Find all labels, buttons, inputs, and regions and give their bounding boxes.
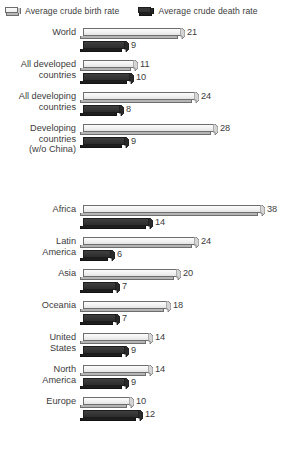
birth-rate-bar-base: [80, 68, 131, 71]
death-rate-bar-base: [80, 354, 122, 357]
birth-rate-bar-base: [80, 309, 164, 312]
death-rate-bar-end-cap: [110, 250, 114, 261]
death-rate-bar-face: [83, 250, 111, 258]
death-rate-value-label: 12: [145, 409, 155, 420]
category-label: United States: [0, 332, 76, 353]
birth-rate-value-label: 11: [140, 59, 150, 70]
category-label: North America: [0, 364, 76, 385]
death-rate-bar-base: [80, 226, 146, 229]
death-rate-bar-base: [80, 290, 113, 293]
birth-rate-value-label: 10: [136, 396, 146, 407]
death-rate-value-label: 9: [131, 40, 136, 51]
birth-rate-bar-end-cap: [148, 333, 152, 344]
birth-rate-bar-base: [80, 405, 127, 408]
chart-group-aggregates: World219All developed countries1110All d…: [0, 28, 305, 156]
birth-rate-bar-face: [83, 92, 195, 100]
death-rate-bar-face: [83, 73, 130, 81]
birth-rate-bar-end-cap: [194, 92, 198, 103]
chart-row: North America149: [0, 365, 305, 397]
category-label: Africa: [0, 204, 76, 215]
death-rate-bar-end-cap: [124, 378, 128, 389]
chart-row: United States149: [0, 333, 305, 365]
death-rate-bar-face: [83, 105, 120, 113]
birth-rate-bar-end-cap: [148, 365, 152, 376]
death-rate-bar-base: [80, 145, 122, 148]
chart-row: Developing countries (w/o China)289: [0, 124, 305, 156]
chart-row: All developed countries1110: [0, 60, 305, 92]
birth-rate-bar-base: [80, 132, 211, 135]
birth-rate-bar-base: [80, 100, 192, 103]
death-rate-value-label: 8: [126, 104, 131, 115]
birth-rate-value-label: 21: [187, 27, 197, 38]
birth-rate-bar-base: [80, 36, 178, 39]
death-rate-bar-face: [83, 346, 125, 354]
death-rate-value-label: 9: [131, 377, 136, 388]
birth-rate-bar-face: [83, 124, 214, 132]
birth-rate-value-label: 14: [155, 364, 165, 375]
birth-rate-value-label: 38: [267, 204, 277, 215]
death-rate-bar-base: [80, 386, 122, 389]
birth-rate-value-label: 28: [220, 123, 230, 134]
death-rate-bar-end-cap: [115, 282, 119, 293]
death-rate-value-label: 10: [136, 72, 146, 83]
birth-rate-bar-base: [80, 277, 174, 280]
birth-rate-bar-end-cap: [213, 124, 217, 135]
category-label: Developing countries (w/o China): [0, 123, 76, 155]
birth-rate-bar-face: [83, 301, 167, 309]
chart-row: World219: [0, 28, 305, 60]
category-label: All developed countries: [0, 59, 76, 80]
birth-rate-bar-base: [80, 213, 258, 216]
birth-rate-value-label: 20: [183, 268, 193, 279]
birth-rate-bar-end-cap: [180, 28, 184, 39]
chart-row: Asia207: [0, 269, 305, 301]
birth-rate-bar-face: [83, 60, 134, 68]
death-rate-value-label: 14: [155, 217, 165, 228]
figure-caption: [6, 442, 299, 450]
death-rate-bar-end-cap: [124, 41, 128, 52]
category-label: Latin America: [0, 236, 76, 257]
chart-row: Oceania187: [0, 301, 305, 333]
birth-rate-bar-end-cap: [129, 397, 133, 408]
birth-rate-bar-end-cap: [260, 205, 264, 216]
birth-rate-bar-face: [83, 205, 261, 213]
chart-row: All developing countries248: [0, 92, 305, 124]
death-rate-value-label: 6: [117, 249, 122, 260]
death-rate-bar-face: [83, 218, 149, 226]
death-rate-bar-face: [83, 137, 125, 145]
death-rate-bar-base: [80, 81, 127, 84]
death-rate-bar-face: [83, 314, 116, 322]
category-label: All developing countries: [0, 91, 76, 112]
birth-rate-bar-end-cap: [176, 269, 180, 280]
birth-rate-value-label: 18: [173, 300, 183, 311]
birth-rate-bar-face: [83, 237, 195, 245]
birth-rate-bar-face: [83, 333, 149, 341]
birth-rate-bar-face: [83, 365, 149, 373]
birth-rate-value-label: 24: [201, 236, 211, 247]
death-rate-value-label: 9: [131, 345, 136, 356]
category-label: World: [0, 27, 76, 38]
chart-row: Latin America246: [0, 237, 305, 269]
chart-group-regions: Africa3814Latin America246Asia207Oceania…: [0, 205, 305, 429]
death-rate-bar-end-cap: [148, 218, 152, 229]
birth-rate-bar-end-cap: [166, 301, 170, 312]
chart-row: Europe1012: [0, 397, 305, 429]
chart-row: Africa3814: [0, 205, 305, 237]
death-rate-bar-base: [80, 113, 117, 116]
bar-chart-plot-area: World219All developed countries1110All d…: [0, 0, 305, 451]
birth-rate-bar-base: [80, 373, 146, 376]
birth-rate-value-label: 24: [201, 91, 211, 102]
death-rate-bar-end-cap: [124, 346, 128, 357]
birth-rate-bar-base: [80, 245, 192, 248]
death-rate-bar-end-cap: [129, 73, 133, 84]
category-label: Oceania: [0, 300, 76, 311]
death-rate-bar-base: [80, 258, 108, 261]
death-rate-bar-base: [80, 322, 113, 325]
category-label: Asia: [0, 268, 76, 279]
birth-rate-bar-end-cap: [194, 237, 198, 248]
birth-rate-bar-base: [80, 341, 146, 344]
birth-rate-bar-face: [83, 397, 130, 405]
death-rate-bar-end-cap: [115, 314, 119, 325]
birth-rate-bar-face: [83, 269, 177, 277]
death-rate-bar-base: [80, 418, 136, 421]
death-rate-bar-face: [83, 41, 125, 49]
